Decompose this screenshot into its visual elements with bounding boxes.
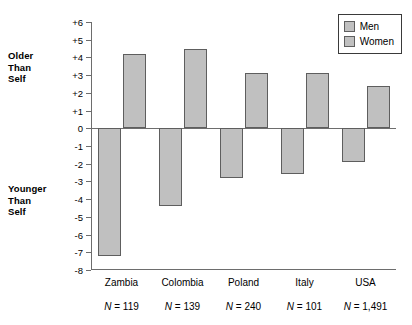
y-tick	[86, 235, 91, 236]
y-tick	[86, 270, 91, 271]
bar-chart-figure: Older Than Self Younger Than Self +6+5+4…	[0, 0, 412, 325]
legend-swatch-women	[344, 36, 355, 47]
y-tick	[86, 75, 91, 76]
sample-size-label-usa: N = 1,491	[344, 301, 388, 312]
y-axis-spine	[91, 22, 92, 270]
y-tick	[86, 40, 91, 41]
legend-item-men: Men	[344, 19, 394, 34]
x-axis-bottom-spine	[91, 269, 396, 270]
legend: Men Women	[338, 14, 402, 54]
bar-women-zambia	[123, 54, 146, 128]
y-tick	[86, 252, 91, 253]
legend-item-women: Women	[344, 34, 394, 49]
bar-men-colombia	[159, 128, 182, 206]
older-than-self-label: Older Than Self	[8, 50, 33, 85]
y-tick-label: -8	[57, 265, 83, 276]
legend-label-men: Men	[360, 21, 379, 32]
y-tick	[86, 111, 91, 112]
y-tick	[86, 164, 91, 165]
y-tick-label: -4	[57, 194, 83, 205]
bar-men-usa	[342, 128, 365, 162]
y-tick	[86, 93, 91, 94]
y-tick-label: -7	[57, 247, 83, 258]
y-tick-label: -6	[57, 229, 83, 240]
y-tick	[86, 146, 91, 147]
y-tick	[86, 128, 91, 129]
bar-women-poland	[245, 73, 268, 128]
bar-women-colombia	[184, 49, 207, 129]
y-tick-label: +6	[57, 17, 83, 28]
bar-women-italy	[306, 73, 329, 128]
sample-size-label-colombia: N = 139	[165, 301, 200, 312]
y-tick	[86, 181, 91, 182]
y-tick-label: 0	[57, 123, 83, 134]
y-tick-label: +2	[57, 87, 83, 98]
bar-men-italy	[281, 128, 304, 174]
y-tick-label: -5	[57, 211, 83, 222]
category-label-italy: Italy	[295, 277, 313, 288]
category-label-zambia: Zambia	[105, 277, 138, 288]
bar-men-zambia	[98, 128, 121, 256]
category-label-usa: USA	[355, 277, 376, 288]
legend-label-women: Women	[360, 36, 394, 47]
sample-size-label-italy: N = 101	[287, 301, 322, 312]
sample-size-label-zambia: N = 119	[104, 301, 139, 312]
y-tick-label: -3	[57, 176, 83, 187]
category-label-colombia: Colombia	[161, 277, 203, 288]
y-tick	[86, 22, 91, 23]
y-tick-label: +5	[57, 34, 83, 45]
y-tick-label: -2	[57, 158, 83, 169]
bar-men-poland	[220, 128, 243, 178]
y-tick	[86, 57, 91, 58]
younger-than-self-label: Younger Than Self	[8, 183, 47, 218]
y-tick-label: -1	[57, 141, 83, 152]
legend-swatch-men	[344, 21, 355, 32]
plot-area: +6+5+4+3+2+10-1-2-3-4-5-6-7-8	[91, 22, 396, 270]
y-tick	[86, 199, 91, 200]
category-label-poland: Poland	[228, 277, 259, 288]
y-tick	[86, 217, 91, 218]
y-tick-label: +1	[57, 105, 83, 116]
sample-size-label-poland: N = 240	[226, 301, 261, 312]
y-tick-label: +3	[57, 70, 83, 81]
bar-women-usa	[367, 86, 390, 129]
y-tick-label: +4	[57, 52, 83, 63]
